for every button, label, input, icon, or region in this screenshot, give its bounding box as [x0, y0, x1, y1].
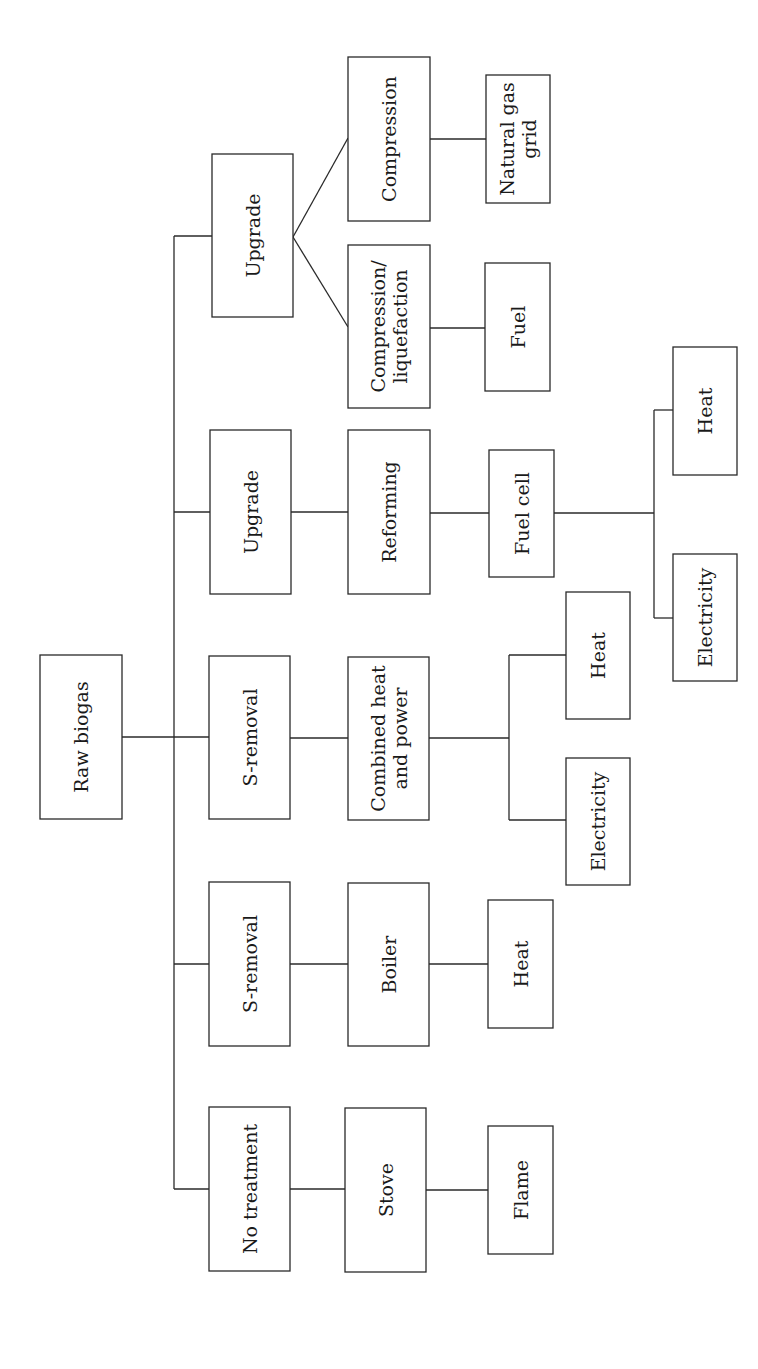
- connector-line: [293, 138, 348, 237]
- node-heat-boiler: Heat: [488, 900, 553, 1028]
- node-label: grid: [518, 119, 540, 158]
- node-label: Stove: [375, 1163, 397, 1217]
- node-s-removal-boiler: S-removal: [209, 882, 290, 1046]
- node-compression: Compression: [348, 57, 430, 221]
- node-label: Reforming: [378, 461, 400, 563]
- node-label: S-removal: [239, 688, 261, 786]
- node-compression-liquefaction: Compression/liquefaction: [348, 245, 430, 408]
- node-stove: Stove: [345, 1108, 426, 1272]
- node-label: Fuel: [507, 306, 529, 349]
- node-label: Compression: [378, 76, 400, 202]
- node-reforming: Reforming: [348, 430, 430, 594]
- node-label: Heat: [510, 940, 532, 987]
- node-chp: Combined heatand power: [348, 657, 429, 820]
- node-upgrade-fc: Upgrade: [210, 430, 291, 594]
- node-label: Raw biogas: [70, 681, 92, 792]
- node-label: liquefaction: [389, 269, 411, 383]
- node-label: Flame: [510, 1160, 532, 1220]
- node-label: Boiler: [378, 935, 400, 994]
- biogas-utilization-diagram: Raw biogasNo treatmentStoveFlameS-remova…: [0, 0, 758, 1369]
- node-label: Upgrade: [242, 193, 264, 277]
- node-label: Heat: [694, 387, 716, 434]
- node-heat-fc: Heat: [673, 347, 737, 475]
- node-electricity-chp: Electricity: [566, 758, 630, 885]
- node-electricity-fc: Electricity: [673, 554, 737, 681]
- node-label: Natural gas: [496, 82, 518, 196]
- node-fuel-cell: Fuel cell: [489, 450, 554, 577]
- node-boiler: Boiler: [348, 883, 429, 1046]
- node-label: and power: [389, 687, 411, 790]
- node-label: Electricity: [694, 567, 716, 667]
- node-label: Upgrade: [240, 470, 262, 554]
- node-label: Fuel cell: [511, 472, 533, 555]
- node-label: Heat: [587, 632, 609, 679]
- node-natural-gas-grid: Natural gasgrid: [486, 75, 550, 203]
- node-s-removal-chp: S-removal: [209, 656, 290, 819]
- node-no-treatment: No treatment: [209, 1107, 290, 1271]
- node-label: Electricity: [587, 771, 609, 871]
- node-label: Compression/: [367, 260, 389, 393]
- node-heat-chp: Heat: [566, 592, 630, 719]
- diagram-nodes: Raw biogasNo treatmentStoveFlameS-remova…: [40, 57, 737, 1272]
- node-raw-biogas: Raw biogas: [40, 655, 122, 819]
- connector-line: [293, 237, 348, 327]
- node-flame: Flame: [488, 1126, 553, 1254]
- node-fuel: Fuel: [485, 263, 550, 391]
- node-label: No treatment: [239, 1124, 261, 1255]
- node-upgrade-gas: Upgrade: [212, 154, 293, 317]
- node-label: S-removal: [239, 915, 261, 1013]
- node-label: Combined heat: [367, 665, 389, 812]
